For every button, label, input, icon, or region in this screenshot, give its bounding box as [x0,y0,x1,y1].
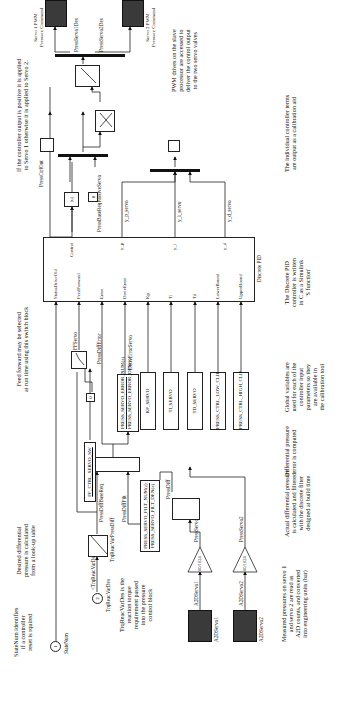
servo1-pwm-output[interactable] [45,0,67,27]
kp-servo-param[interactable]: KP_SERVO [140,372,156,430]
press-diff-base-req-label: PressDiffBaseReq [98,484,104,522]
pid-out-3: y_d [222,243,227,250]
press-diff-filt-label: PressDiffFilt [121,495,127,522]
deriv-error-servo-label: DerivErrorServo [127,335,133,370]
press-servo1-label: PressServo1 [193,516,199,542]
pid-in-1: FeedForward [76,273,81,299]
press-diff-label: PressDiff [165,479,171,499]
note-differr: Differential pressure error is computed [283,426,297,477]
pid-in-2: Error [99,289,104,299]
pid-in-8: UpperBound [238,274,243,299]
servo2-pwm-output[interactable] [122,0,144,27]
pid-out-2: y_i [172,244,177,250]
td-servo-param[interactable]: TD_SERVO [187,372,203,430]
mux-bar-1 [58,154,108,157]
servo2-signal-label: PressServo2Des [98,18,104,52]
ff-switch-block[interactable] [71,351,87,369]
note-globals: Global variables are used for each of th… [283,362,325,412]
pid-out-1: y_p [119,243,124,250]
note-terms: The individual controller terms are outp… [283,95,297,172]
swap-block[interactable] [95,110,115,132]
press-filter-block[interactable]: PRESS_SERVO_FILT_NUM(z) PRESS_SERVO_FILT… [140,480,160,552]
gain-1-value: 60/1024 [197,556,203,571]
pid-in-7: LowerBound [215,274,220,299]
const-zero-ff[interactable]: 0 [86,393,95,402]
pid-title: Discrete PID [256,255,262,282]
note-actual: Actual differential pressure is calculat… [283,469,311,537]
pid-in-3: DerivError [122,278,127,299]
y-i-label: y_i_servo [176,202,182,222]
note-desired: Desired differential pressure is calcula… [15,524,36,577]
low-clip-param[interactable]: PRESS_CTRL_LOW_CLIP [210,372,226,430]
servo1-signal-label: PressServo1Des [73,18,79,52]
simulink-diagram: 1 StateNum 2 TrqReacVarDes <TrqReacVarDe… [0,0,351,702]
switch-icon [76,64,101,86]
switch-icon [72,350,88,368]
error-filter-block[interactable]: PRESS_SERVO_ERROR_NUM(z) PRESS_SERVO_ERR… [117,374,139,432]
lookup-label: TrqReacVarPressDiff [109,518,115,562]
y-p-label: y_p_servo [123,200,129,222]
note-trqreac: TrqReacVarDes is the reaction torque req… [118,578,153,632]
press-ctrl-out-label: PressCtrlOut [38,160,44,187]
pid-in-4: Kp [145,293,150,299]
pid-in-0: StatusDriveOld [53,269,58,299]
pid-out-0: Control [69,242,74,257]
servo1-pwm-label: Servo 1 PWM Pressure Command [33,8,45,47]
y-d-label: y_d_servo [226,200,232,222]
ti-servo-param[interactable]: TI_SERVO [163,372,179,430]
note-measured: Measured pressures on servo 1 and servo … [280,566,308,642]
sign-compare-block[interactable] [40,138,54,152]
lookup-icon [89,534,109,556]
lookup-table[interactable] [88,535,108,557]
pid-in-6: Td [192,294,197,299]
sum-pressdiff[interactable] [172,498,200,520]
output-switch-block[interactable] [75,65,100,87]
note-feedforward: Feed forward may be selected at run time… [15,307,29,392]
ff-ctrl-servo-sw-param[interactable]: FF_CTRL_SERVO_SW [84,442,96,502]
press-servo2-label: PressServo2 [238,516,244,542]
note-pid: The Discrete PID controller is written i… [283,258,311,307]
abs-block[interactable]: |u| [64,192,79,207]
terms-display[interactable] [168,140,180,152]
servo2-pwm-label: Servo 2 PWM Pressure Command [145,8,157,47]
mux-bar-terms [150,169,200,172]
note-pwm: PWM drives on the slave processor are ac… [170,29,198,92]
press-base-req-passive-label: PressBaseReqPassiveServo [96,175,102,232]
cross-icon [96,109,116,131]
ff-servo-label: FFServo [72,332,78,350]
note-statenum: StateNum identifies if a controller rese… [12,608,33,657]
high-clip-param[interactable]: PRESS_CTRL_HIGH_CLIP [233,372,249,430]
gain-2-value: 60/1024 [242,556,248,571]
press-diff-error-label: PressDiffError [96,334,102,364]
note-routing: If the controller output is positive it … [15,59,29,172]
demux-bar-out [55,54,125,57]
pid-in-5: Ti [168,295,173,299]
